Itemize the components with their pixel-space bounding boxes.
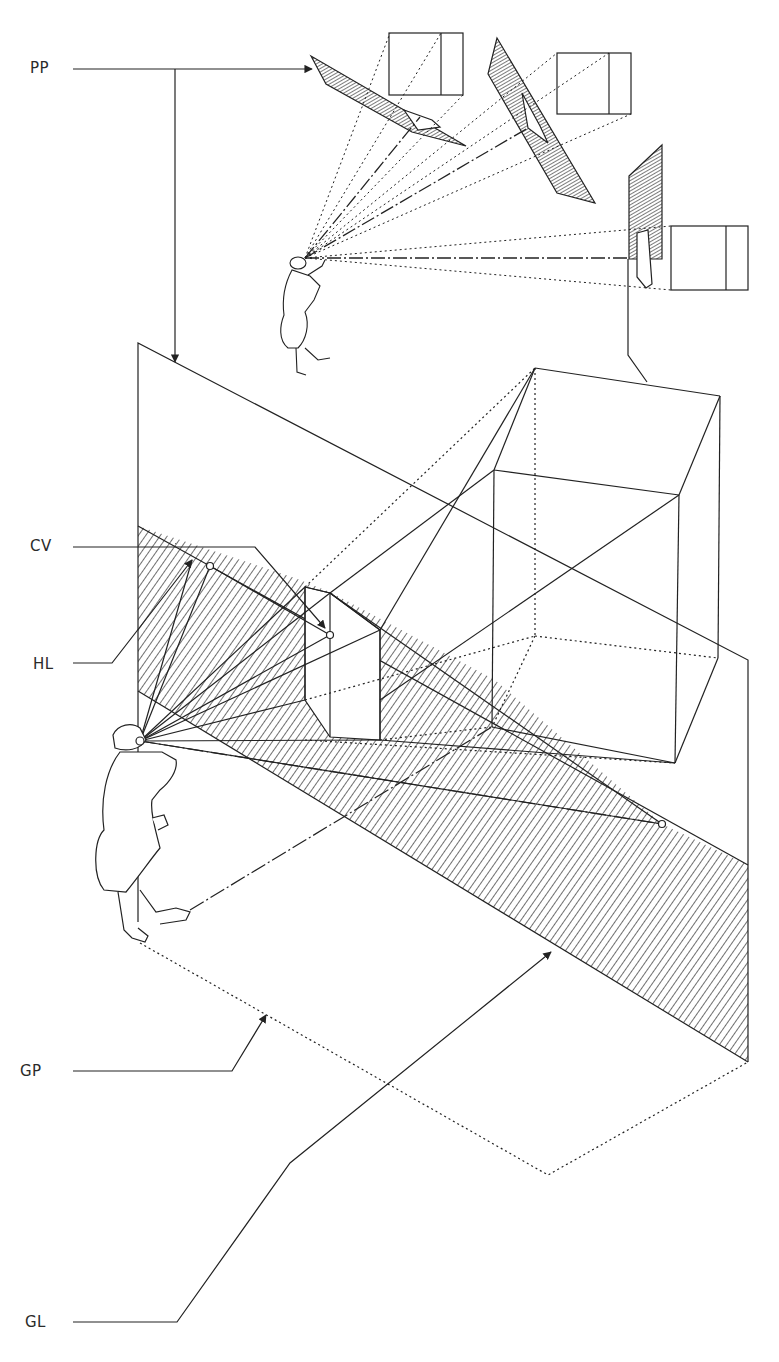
- figure-main-observer: [96, 725, 190, 942]
- perspective-diagram: [0, 0, 779, 1362]
- small-box: [305, 587, 380, 740]
- cube-study-2: [557, 53, 631, 114]
- figure-small-observer: [281, 257, 330, 375]
- gl-leader: [73, 952, 551, 1322]
- cube-study-1: [389, 33, 463, 95]
- tilted-plane-3: [629, 145, 662, 288]
- gp-leader: [73, 1015, 266, 1071]
- hatched-region: [138, 526, 748, 1062]
- large-box: [492, 368, 720, 763]
- pp-leader: [73, 69, 312, 362]
- cube-study-3: [671, 226, 748, 290]
- tilted-plane-2: [488, 38, 595, 203]
